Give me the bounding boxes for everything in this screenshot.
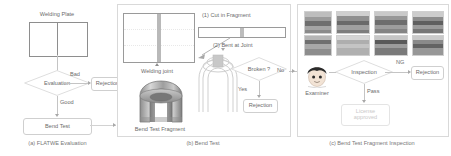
fragment-thumbnail	[304, 35, 332, 56]
welding-plate-label: Welding Plate	[40, 11, 74, 17]
arrowhead-down-bendtest	[55, 114, 59, 117]
welding-joint-label: Welding joint	[141, 68, 173, 74]
edge-broken-to-rejection	[259, 81, 260, 96]
edge-inspection-to-rejection	[385, 72, 409, 73]
panel-c-caption: (c) Bend Test Fragment Inspection	[297, 140, 447, 146]
arrowhead-panel-b-to-c	[292, 69, 295, 73]
edge-examiner-to-inspection	[329, 72, 336, 73]
rejection-box-b[interactable]: Rejection	[243, 99, 278, 113]
edge-label-pass: Pass	[367, 88, 379, 94]
welding-plate-shape	[29, 22, 88, 57]
examiner-face-icon	[304, 62, 330, 88]
step-2-label: (2) Bent at Joint	[213, 42, 253, 48]
edge-label-yes: Yes	[238, 86, 247, 92]
edge-evaluation-to-bendtest	[57, 96, 58, 115]
fragment-thumbnail	[412, 11, 444, 34]
edge-evaluation-to-rejection	[64, 83, 88, 84]
rejection-box-c[interactable]: Rejection	[411, 66, 444, 80]
arrowhead-down-license	[362, 100, 366, 103]
edge-label-bad: Bad	[70, 71, 80, 77]
panel-a-caption: (a) FLATWE Evaluation	[0, 140, 115, 146]
edge-label-good: Good	[60, 99, 74, 105]
fragment-thumbnail	[412, 35, 444, 56]
step-1-label: (1) Cut in Fragment	[202, 12, 251, 18]
fragment-joint-band	[240, 28, 244, 37]
license-approved-box[interactable]: License approved	[341, 104, 390, 126]
bend-test-fragment-label: Bend Test Fragment	[135, 126, 185, 132]
bend-test-box[interactable]: Bend Test	[23, 118, 92, 135]
arrowhead-down-rejection-b	[257, 95, 261, 98]
fragment-thumbnail	[336, 35, 370, 56]
fragment-thumbnail	[304, 11, 332, 34]
figure-container: Welding Plate Evaluation Bad Rejection G…	[0, 0, 451, 156]
examiner-label: Examiner	[305, 90, 329, 96]
arrowhead-panel-a-to-b	[113, 123, 116, 127]
bend-test-fragment-photo	[136, 76, 186, 124]
arrowhead-down-bent	[221, 48, 225, 51]
weld-joint-band	[157, 14, 161, 62]
edge-label-no: No	[277, 67, 284, 73]
arrowhead-up-welding-joint	[155, 63, 159, 66]
welding-plate-shape-b	[123, 13, 195, 63]
edge-inspection-to-license	[364, 84, 365, 101]
fragment-thumbnail	[374, 11, 408, 34]
edge-label-ng: NG	[396, 59, 404, 65]
panel-b-caption: (b) Bend Test	[117, 140, 289, 146]
fragment-thumbnail	[336, 11, 370, 34]
fragment-thumbnail	[374, 35, 408, 56]
weld-seam-line	[57, 23, 58, 56]
